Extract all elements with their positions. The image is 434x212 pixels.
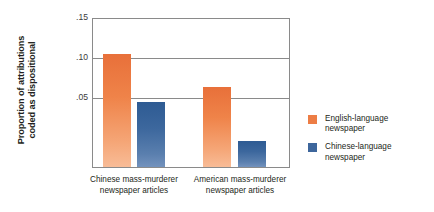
- y-axis-title: Proportion of attributions coded as disp…: [16, 5, 46, 175]
- y-axis-title-line-2: coded as dispositional: [27, 5, 38, 175]
- legend-label-chinese-language-newspaper: Chinese-language newspaper: [325, 142, 434, 162]
- plot-area: [92, 18, 290, 168]
- legend-label-english-line-1: English-language: [325, 114, 434, 124]
- y-tick-label-05: .05: [60, 93, 88, 102]
- x-axis-label-american-articles-line-1: American mass-murderer: [180, 174, 300, 185]
- legend-label-english-line-2: newspaper: [325, 124, 434, 134]
- x-axis-label-american-articles: American mass-murderer newspaper article…: [180, 174, 300, 196]
- y-axis-title-line-1: Proportion of attributions: [16, 5, 27, 175]
- x-axis-label-american-articles-line-2: newspaper articles: [180, 185, 300, 196]
- chart-legend: English-language newspaper Chinese-langu…: [308, 114, 434, 171]
- legend-item-english-language-newspaper: English-language newspaper: [308, 114, 434, 134]
- y-tick-label-15: .15: [60, 13, 88, 22]
- bar-american-articles-english-newspaper: [203, 87, 231, 167]
- legend-swatch-icon-english-language-newspaper: [308, 115, 317, 124]
- bar-american-articles-chinese-newspaper: [238, 141, 266, 167]
- y-tick-label-10: .10: [60, 53, 88, 62]
- x-axis-label-chinese-articles: Chinese mass-murderer newspaper articles: [74, 174, 194, 196]
- x-axis-label-chinese-articles-line-1: Chinese mass-murderer: [74, 174, 194, 185]
- x-axis-label-chinese-articles-line-2: newspaper articles: [74, 185, 194, 196]
- legend-item-chinese-language-newspaper: Chinese-language newspaper: [308, 142, 434, 162]
- legend-label-chinese-line-2: newspaper: [325, 153, 434, 163]
- chart-figure: Proportion of attributions coded as disp…: [0, 0, 434, 212]
- bar-chinese-articles-english-newspaper: [103, 54, 131, 167]
- legend-label-english-language-newspaper: English-language newspaper: [325, 114, 434, 134]
- legend-swatch-icon-chinese-language-newspaper: [308, 143, 317, 152]
- legend-label-chinese-line-1: Chinese-language: [325, 142, 434, 152]
- bar-chinese-articles-chinese-newspaper: [137, 102, 165, 167]
